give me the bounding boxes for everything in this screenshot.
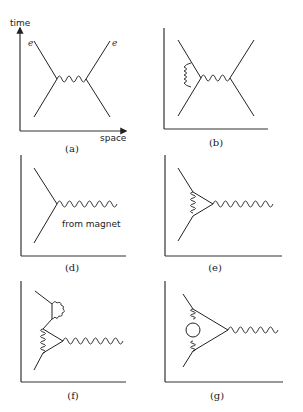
- panel-caption: (e): [208, 262, 222, 273]
- panel-caption: (d): [65, 262, 79, 273]
- photon-line: [201, 75, 230, 81]
- electron-line: [86, 41, 110, 79]
- electron-line: [183, 351, 193, 367]
- electron-line: [178, 78, 201, 116]
- vacuum-polarization-loop: [186, 323, 200, 337]
- electron-line: [43, 341, 63, 353]
- electron-line: [183, 294, 193, 309]
- photon-line-lower: [191, 341, 196, 351]
- panel-caption: (f): [67, 390, 79, 401]
- electron-line: [178, 168, 193, 192]
- panel-a: time space e e (a): [10, 18, 127, 154]
- panel-caption: (a): [65, 143, 79, 154]
- electron-line: [43, 319, 52, 329]
- self-energy-photon-loop: [52, 302, 64, 319]
- panel-g: (g): [165, 281, 283, 401]
- electron-line: [193, 330, 228, 351]
- electron-line: [230, 78, 254, 116]
- feynman-diagram-figure: time space e e (a) (b) from magnet (d): [0, 0, 303, 412]
- electron-line: [86, 79, 110, 117]
- panel-caption: (g): [210, 390, 224, 401]
- electron-line: [193, 192, 213, 204]
- panel-e: (e): [165, 155, 282, 273]
- electron-line: [178, 216, 193, 241]
- external-photon-line: [57, 201, 117, 207]
- electron-label-right: e: [112, 38, 117, 48]
- electron-line: [193, 309, 228, 330]
- electron-line: [34, 353, 43, 370]
- external-photon-line: [228, 327, 278, 333]
- from-magnet-annotation: from magnet: [62, 219, 121, 229]
- space-axis-label: space: [100, 133, 127, 143]
- electron-line: [193, 204, 213, 216]
- electron-line: [34, 41, 57, 79]
- panel-d: from magnet (d): [21, 155, 126, 273]
- vertex-photon-loop: [41, 329, 46, 353]
- electron-line: [34, 168, 57, 204]
- photon-line: [57, 76, 86, 82]
- external-photon-line: [63, 338, 123, 344]
- electron-label-left: e: [28, 38, 33, 48]
- self-energy-photon-loop: [184, 63, 191, 87]
- electron-line: [43, 329, 63, 341]
- electron-line: [34, 79, 57, 117]
- electron-line: [178, 40, 201, 78]
- panel-f: (f): [21, 281, 126, 401]
- electron-line: [35, 291, 52, 304]
- panel-b: (b): [164, 28, 268, 148]
- vertex-photon-loop: [191, 192, 196, 213]
- time-axis-label: time: [10, 18, 31, 28]
- electron-line: [230, 40, 254, 78]
- electron-line: [34, 204, 57, 243]
- panel-caption: (b): [209, 137, 223, 148]
- external-photon-line: [213, 201, 273, 207]
